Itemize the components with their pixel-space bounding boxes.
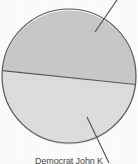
pie-chart-stage: Democrat John K: [0, 0, 138, 164]
pie-chart-screenshot: Democrat John K: [0, 0, 138, 164]
lower-slice-callout-label: Democrat John K: [0, 156, 138, 164]
pie-chart-svg: [0, 0, 138, 164]
